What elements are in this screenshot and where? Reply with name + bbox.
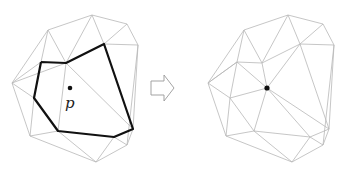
triangulation-edge: [254, 88, 267, 131]
triangulation-edge: [288, 15, 300, 44]
triangulation-edge: [323, 24, 334, 45]
point-label: p: [65, 94, 75, 112]
diagram-canvas: p: [0, 0, 339, 169]
triangulation-edge: [12, 83, 34, 98]
triangulation-edge: [267, 44, 300, 88]
triangulation-edge: [96, 137, 114, 162]
triangulation-edge: [300, 44, 334, 45]
triangulation-edge: [48, 30, 66, 63]
triangulation-edge: [230, 98, 254, 131]
right-triangulation: [208, 15, 334, 162]
triangulation-edge: [208, 62, 237, 83]
triangulation-edge: [292, 145, 323, 162]
triangulation-edge: [262, 44, 300, 63]
triangulation-edge: [58, 131, 96, 162]
triangulation-edge: [30, 131, 58, 136]
triangulation-edge: [92, 15, 104, 44]
star-polygon: [34, 44, 133, 137]
triangulation-edge: [92, 15, 127, 24]
triangulation-edge: [114, 137, 127, 145]
triangulation-edge: [292, 137, 310, 162]
triangulation-edge: [30, 136, 96, 162]
triangulation-edge: [310, 137, 323, 145]
triangulation-edge: [96, 145, 127, 162]
triangulation-edge: [127, 24, 138, 45]
triangulation-edge: [12, 83, 30, 136]
triangulation-edge: [230, 88, 267, 98]
triangulation-edge: [104, 24, 127, 44]
triangulation-edge: [226, 98, 230, 136]
triangulation-edge: [230, 62, 237, 98]
triangulation-edge: [300, 24, 323, 44]
triangulation-edge: [300, 44, 329, 129]
triangulation-edge: [104, 44, 138, 45]
triangulation-edge: [288, 15, 323, 24]
triangulation-edge: [208, 83, 230, 98]
triangulation-edge: [30, 98, 34, 136]
triangulation-edge: [66, 63, 133, 129]
inserted-point: [264, 85, 269, 90]
triangulation-edge: [208, 83, 226, 136]
triangulation-edge: [226, 136, 292, 162]
triangulation-edge: [244, 30, 262, 63]
triangulation-edge: [254, 131, 292, 162]
triangulation-edge: [254, 131, 310, 137]
transform-arrow-icon: [151, 75, 174, 101]
triangulation-edge: [237, 62, 262, 63]
triangulation-edge: [226, 131, 254, 136]
point-p: [68, 86, 73, 91]
